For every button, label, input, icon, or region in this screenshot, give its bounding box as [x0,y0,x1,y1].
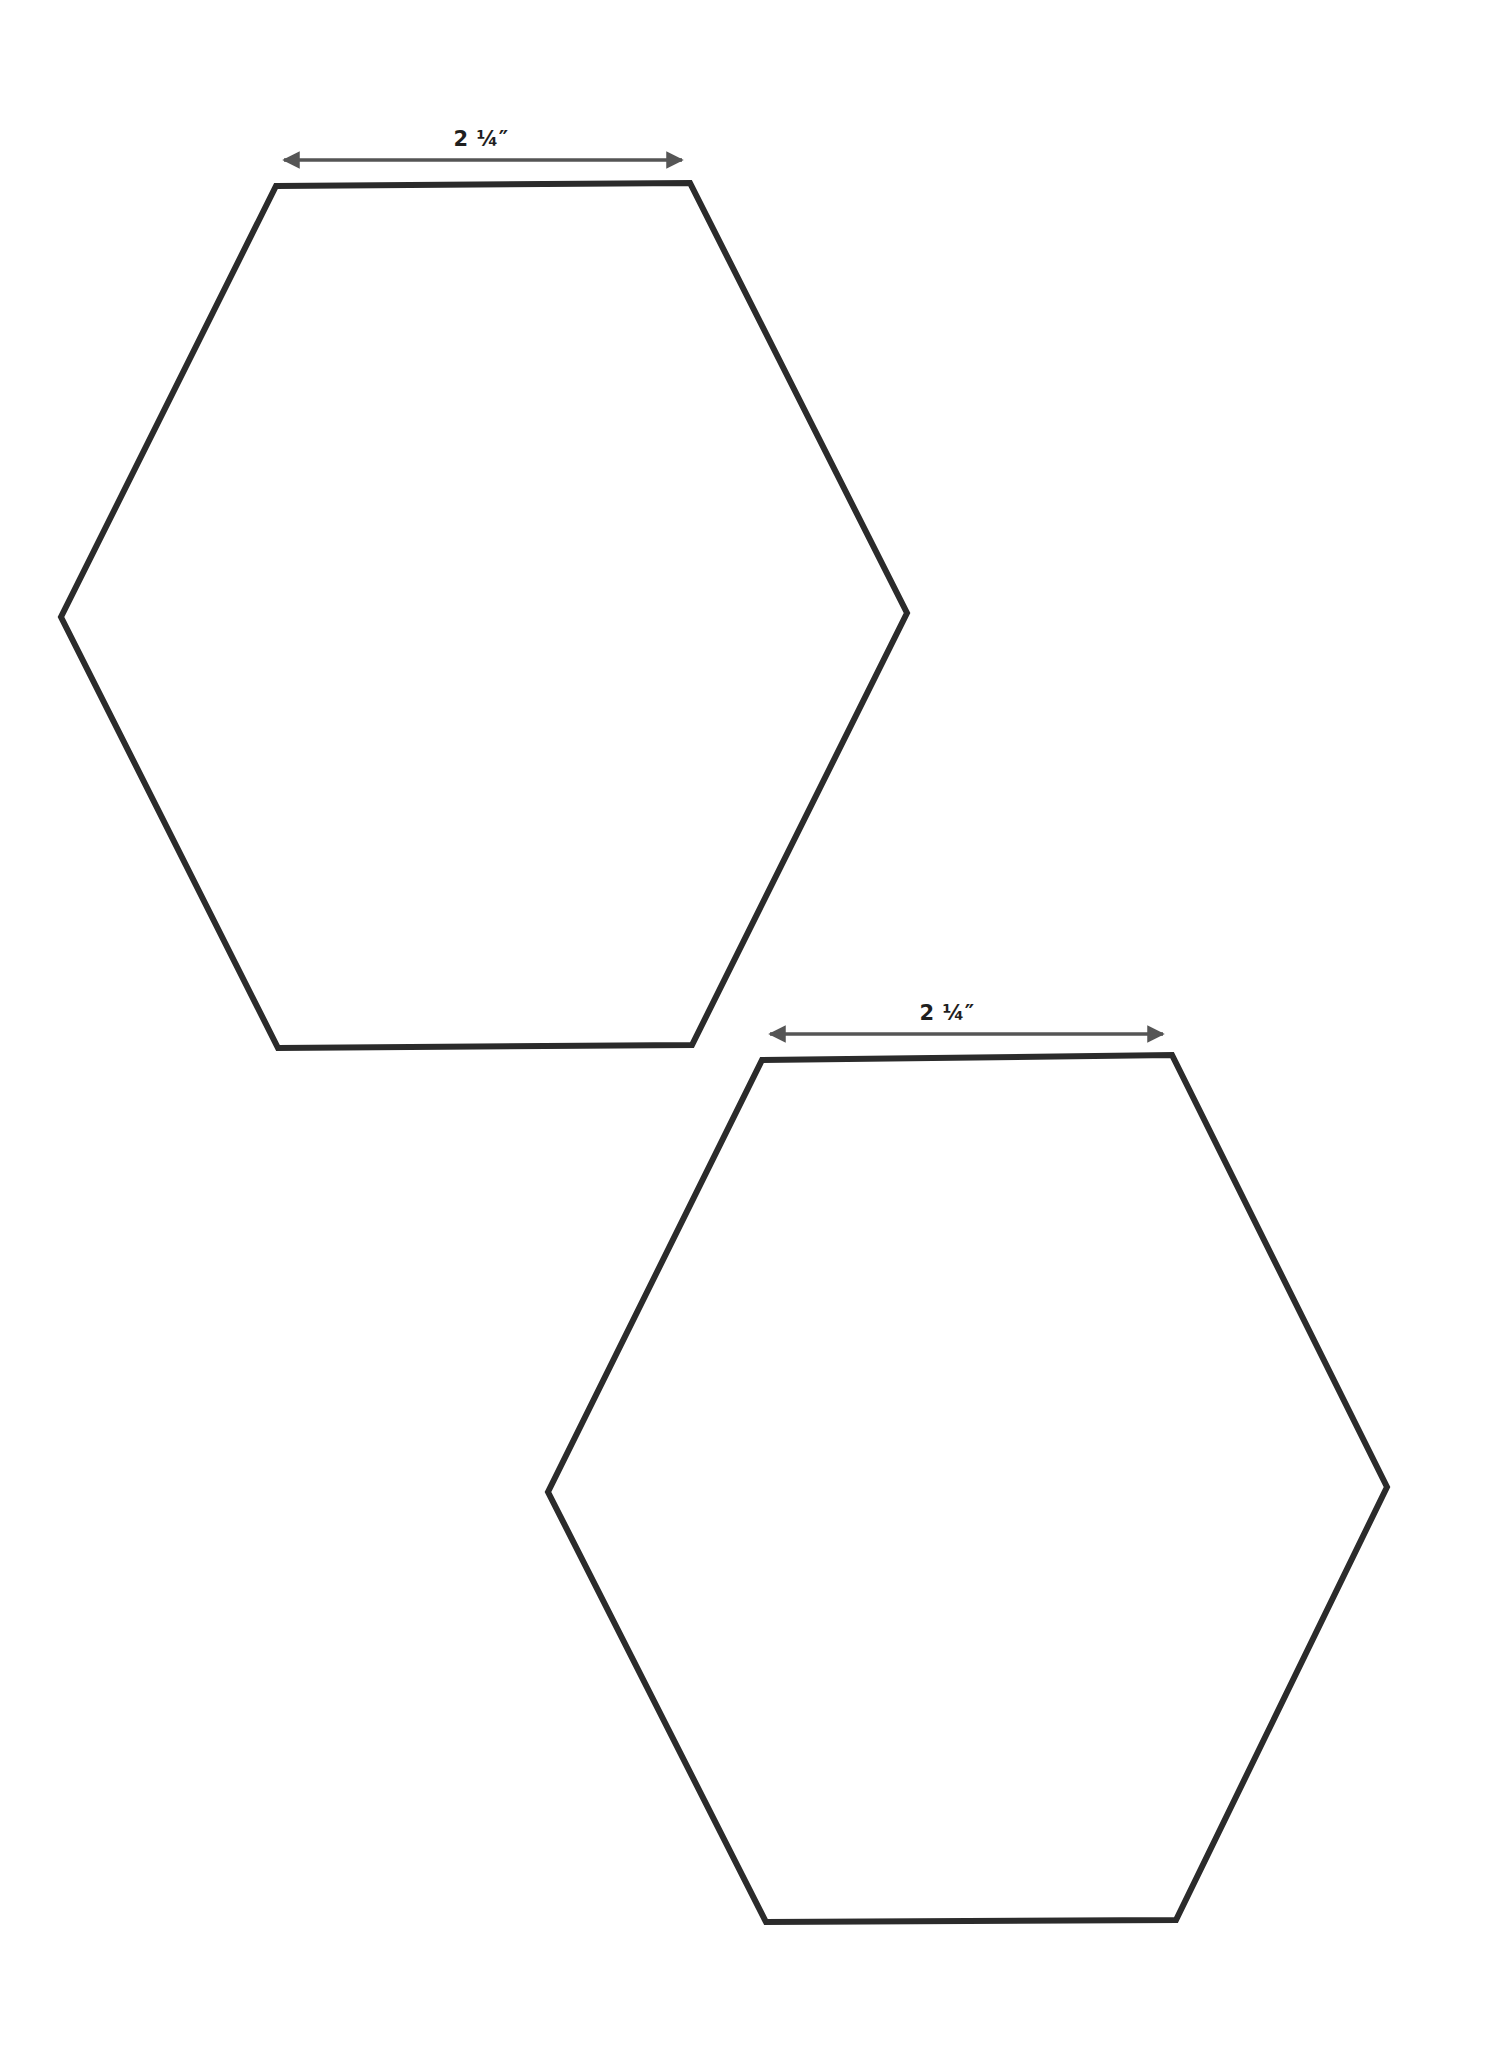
hexagon-template-2 [548,1034,1387,1922]
hexagon-outline-2 [548,1055,1387,1922]
hexagon-template-1 [61,160,907,1048]
dimension-label-2: 2 ¼″ [919,1003,974,1024]
hexagon-outline-1 [61,183,907,1048]
dimension-label-1: 2 ¼″ [453,129,508,150]
hexagon-template-sheet [0,0,1494,2055]
